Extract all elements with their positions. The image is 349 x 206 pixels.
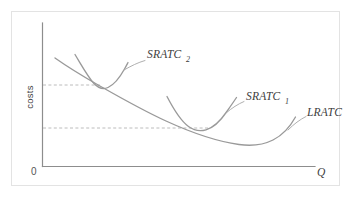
lratc-chart: SRATC 2 SRATC 1 LRATC 0 Q costs <box>0 0 349 206</box>
sratc1-label-subscript: 1 <box>285 97 289 106</box>
y-axis-label: costs <box>24 85 35 109</box>
sratc2-label: SRATC <box>147 48 182 60</box>
lratc-label-group: LRATC <box>306 106 342 118</box>
sratc2-label-subscript: 2 <box>186 55 190 64</box>
lratc-leader-line <box>288 117 306 131</box>
sratc1-leader-line <box>226 102 244 114</box>
lratc-label: LRATC <box>306 106 342 118</box>
origin-label: 0 <box>31 166 37 177</box>
x-axis-label: Q <box>317 166 326 178</box>
sratc2-curve <box>75 55 128 89</box>
sratc1-label-group: SRATC 1 <box>246 90 289 106</box>
sratc1-label: SRATC <box>246 90 281 102</box>
sratc2-label-group: SRATC 2 <box>147 48 190 64</box>
figure-root: SRATC 2 SRATC 1 LRATC 0 Q costs <box>0 0 349 206</box>
